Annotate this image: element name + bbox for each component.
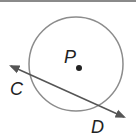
label-d: D bbox=[91, 117, 104, 137]
geometry-figure: P C D bbox=[0, 0, 136, 138]
center-point bbox=[76, 65, 82, 71]
label-p: P bbox=[64, 47, 76, 67]
label-c: C bbox=[10, 79, 24, 99]
diagram-svg: P C D bbox=[0, 0, 136, 138]
secant-line-cd bbox=[11, 66, 124, 117]
